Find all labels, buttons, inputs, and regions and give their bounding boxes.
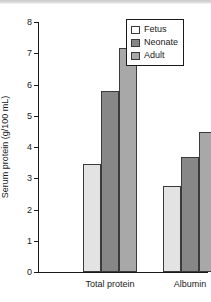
y-tick-mark xyxy=(34,147,38,148)
legend-swatch-neonate xyxy=(131,39,140,47)
bar-adult-total-protein xyxy=(119,48,137,272)
y-tick-label: 7 xyxy=(27,49,32,58)
y-tick-label: 6 xyxy=(27,80,32,89)
category-label-total-protein: Total protein xyxy=(85,280,134,289)
y-tick-label: 4 xyxy=(27,143,32,152)
category-label-albumin: Albumin xyxy=(174,280,207,289)
y-tick-mark xyxy=(34,53,38,54)
legend-swatch-fetus xyxy=(131,26,140,34)
legend-swatch-adult xyxy=(131,52,140,60)
y-tick-label: 2 xyxy=(27,205,32,214)
legend-item-adult: Adult xyxy=(131,49,178,62)
legend-item-fetus: Fetus xyxy=(131,23,178,36)
y-tick-mark xyxy=(34,116,38,117)
y-tick-label: 5 xyxy=(27,111,32,120)
legend-label-neonate: Neonate xyxy=(144,38,178,47)
bar-neonate-total-protein xyxy=(101,91,119,272)
legend-label-adult: Adult xyxy=(144,51,165,60)
x-axis-line xyxy=(38,272,208,273)
y-tick-mark xyxy=(34,210,38,211)
y-tick-mark xyxy=(34,272,38,273)
y-tick-label: 0 xyxy=(27,268,32,277)
legend-item-neonate: Neonate xyxy=(131,36,178,49)
chart-legend: Fetus Neonate Adult xyxy=(126,19,184,66)
chart-figure: 012345678 Total proteinAlbumin Serum pro… xyxy=(0,0,211,302)
y-tick-label: 1 xyxy=(27,236,32,245)
y-tick-label: 8 xyxy=(27,18,32,27)
scan-edge-strip xyxy=(0,0,211,4)
y-axis-title: Serum protein (g/100 mL) xyxy=(0,22,11,272)
bar-neonate-albumin xyxy=(181,157,199,272)
legend-label-fetus: Fetus xyxy=(144,25,167,34)
bar-fetus-albumin xyxy=(163,186,181,272)
y-tick-mark xyxy=(34,85,38,86)
y-axis-line xyxy=(38,22,39,273)
y-tick-label: 3 xyxy=(27,174,32,183)
bar-adult-albumin xyxy=(199,132,211,272)
y-tick-mark xyxy=(34,22,38,23)
y-tick-mark xyxy=(34,241,38,242)
bar-fetus-total-protein xyxy=(83,164,101,272)
y-tick-mark xyxy=(34,178,38,179)
